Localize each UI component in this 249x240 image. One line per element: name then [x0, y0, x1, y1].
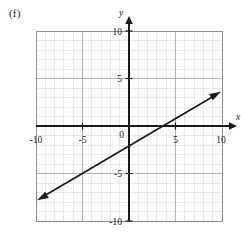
x-axis-label: x [235, 112, 241, 122]
y-tick-label-neg5: -5 [114, 169, 122, 179]
x-tick-label-5: 5 [173, 135, 178, 145]
y-tick-label-neg10: -10 [109, 217, 122, 227]
figure-container: (f) [0, 0, 249, 240]
line-arrow-end-icon [209, 92, 221, 100]
x-tick-label-neg5: -5 [79, 135, 87, 145]
y-tick-label-10: 10 [113, 27, 123, 37]
y-axis-label: y [118, 8, 124, 18]
y-axis-arrow-icon [125, 16, 133, 24]
x-tick-label-10: 10 [216, 135, 226, 145]
axes [36, 19, 234, 221]
coordinate-plane-graph: -10 -5 5 10 10 5 -5 -10 0 x y [0, 0, 249, 240]
line-arrow-start-icon [37, 192, 49, 200]
origin-label: 0 [119, 130, 124, 140]
x-tick-label-neg10: -10 [30, 135, 43, 145]
x-axis-arrow-icon [229, 122, 237, 130]
y-tick-label-5: 5 [117, 74, 122, 84]
